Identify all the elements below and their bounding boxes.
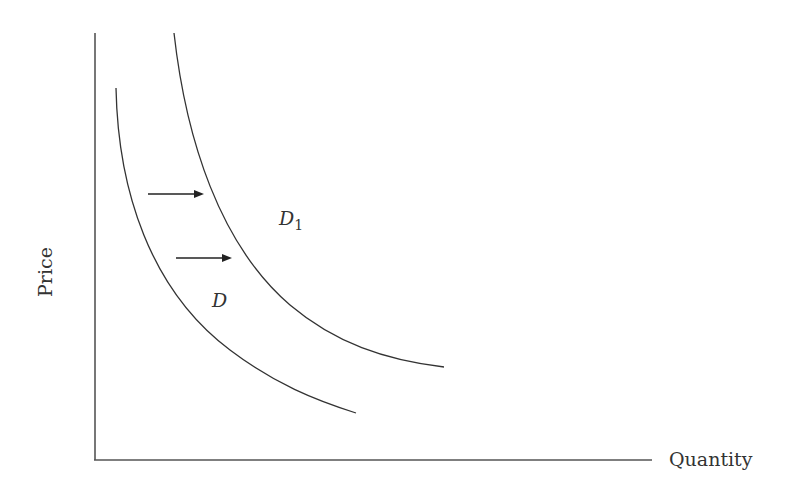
demand-shift-diagram: Price Quantity D1 D <box>0 0 792 491</box>
shift-arrow-lower <box>176 254 232 262</box>
arrowhead-icon <box>222 254 232 262</box>
demand-curve-d1 <box>174 33 444 367</box>
curve-label-d1: D1 <box>278 207 303 233</box>
curve-label-d: D <box>211 289 227 311</box>
shift-arrow-upper <box>148 190 204 198</box>
y-axis-label: Price <box>34 247 56 297</box>
x-axis-label: Quantity <box>669 448 753 470</box>
arrowhead-icon <box>194 190 204 198</box>
demand-curve-d <box>116 88 356 413</box>
